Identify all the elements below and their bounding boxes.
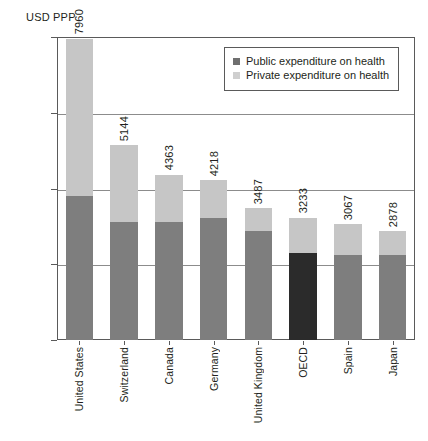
x-axis: United StatesSwitzerlandCanadaGermanyUni… bbox=[57, 345, 415, 441]
chart-legend: Public expenditure on healthPrivate expe… bbox=[224, 47, 399, 91]
bar-value-label: 3233 bbox=[297, 188, 309, 213]
bar-segment-public bbox=[334, 255, 362, 340]
bar-switzerland[interactable] bbox=[110, 145, 138, 340]
x-axis-label-canada: Canada bbox=[163, 347, 175, 384]
x-axis-label-united-kingdom: United Kingdom bbox=[252, 347, 264, 423]
x-axis-label-spain: Spain bbox=[342, 347, 354, 374]
x-axis-label-germany: Germany bbox=[208, 347, 220, 391]
bar-united-states[interactable] bbox=[66, 39, 94, 340]
bar-value-label: 5144 bbox=[118, 116, 130, 141]
bar-germany[interactable] bbox=[200, 180, 228, 340]
bar-oecd[interactable] bbox=[289, 218, 317, 340]
x-axis-label-united-states: United States bbox=[73, 347, 85, 411]
legend-item-public[interactable]: Public expenditure on health bbox=[233, 55, 389, 68]
x-axis-tick-mark bbox=[348, 341, 349, 345]
bar-segment-private bbox=[155, 175, 183, 222]
bar-segment-public bbox=[289, 253, 317, 340]
bar-segment-public bbox=[110, 222, 138, 340]
bar-segment-private bbox=[379, 231, 407, 255]
x-axis-label-oecd: OECD bbox=[297, 347, 309, 378]
legend-swatch-private-icon bbox=[233, 72, 240, 79]
bar-segment-public bbox=[200, 218, 228, 340]
bar-segment-private bbox=[334, 224, 362, 255]
x-axis-label-switzerland: Switzerland bbox=[118, 347, 130, 402]
x-axis-tick-mark bbox=[124, 341, 125, 345]
bar-segment-public bbox=[155, 222, 183, 340]
x-axis-tick-mark bbox=[303, 341, 304, 345]
bar-value-label: 3067 bbox=[342, 195, 354, 220]
bar-united-kingdom[interactable] bbox=[245, 208, 273, 340]
bar-segment-private bbox=[200, 180, 228, 218]
y-axis-tick-mark bbox=[51, 340, 57, 341]
x-axis-label-japan: Japan bbox=[387, 347, 399, 376]
bar-canada[interactable] bbox=[155, 175, 183, 340]
legend-swatch-public-icon bbox=[233, 58, 240, 65]
bar-value-label: 2878 bbox=[387, 202, 399, 227]
bar-value-label: 4218 bbox=[208, 151, 220, 176]
bar-segment-public bbox=[66, 196, 94, 340]
legend-label: Private expenditure on health bbox=[246, 69, 389, 82]
health-expenditure-chart: USD PPP 02000400060008000 79605144436342… bbox=[0, 0, 428, 441]
bar-japan[interactable] bbox=[379, 231, 407, 340]
y-axis: 02000400060008000 bbox=[0, 0, 57, 441]
x-axis-tick-mark bbox=[214, 341, 215, 345]
x-axis-tick-mark bbox=[258, 341, 259, 345]
bar-spain[interactable] bbox=[334, 224, 362, 340]
bar-segment-public bbox=[245, 231, 273, 340]
bar-segment-private bbox=[110, 145, 138, 222]
bar-segment-private bbox=[289, 218, 317, 253]
bar-segment-public bbox=[379, 255, 407, 340]
bar-value-label: 4363 bbox=[163, 145, 175, 170]
bar-segment-private bbox=[66, 39, 94, 197]
x-axis-tick-mark bbox=[393, 341, 394, 345]
bar-value-label: 3487 bbox=[252, 179, 264, 204]
bar-segment-private bbox=[245, 208, 273, 231]
legend-label: Public expenditure on health bbox=[246, 55, 385, 68]
bar-value-label: 7960 bbox=[73, 9, 85, 34]
legend-item-private[interactable]: Private expenditure on health bbox=[233, 69, 389, 82]
x-axis-tick-mark bbox=[79, 341, 80, 345]
x-axis-tick-mark bbox=[169, 341, 170, 345]
